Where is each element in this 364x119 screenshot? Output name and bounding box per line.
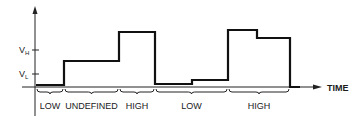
x-axis-label: TIME: [327, 83, 349, 93]
y-axis-arrow-icon: [33, 6, 38, 14]
region-label-low-2: LOW: [181, 101, 202, 111]
region-label-undefined: UNDEFINED: [65, 101, 118, 111]
logic-level-diagram: TIME VH VL LOW UNDEFINED HIGH LOW HIGH: [0, 0, 364, 119]
region-label-high-1: HIGH: [126, 101, 149, 111]
region-brace: [65, 89, 118, 94]
region-label-high-2: HIGH: [248, 101, 271, 111]
region-brace: [229, 89, 289, 94]
region-brace: [156, 89, 227, 94]
vh-label: VH: [19, 45, 29, 56]
region-label-low-1: LOW: [40, 101, 61, 111]
region-brace: [120, 89, 154, 94]
region-braces: [37, 89, 289, 94]
x-axis-arrow-icon: [313, 85, 322, 90]
region-brace: [37, 89, 63, 94]
vl-label: VL: [19, 69, 29, 80]
signal-waveform: [36, 30, 300, 87]
